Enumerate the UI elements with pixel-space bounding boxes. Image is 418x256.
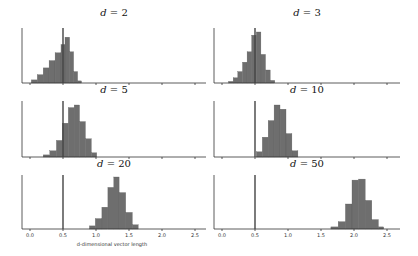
histogram-bar <box>233 78 238 83</box>
histogram-bar <box>274 105 280 157</box>
panel-d20: 0.00.51.01.52.02.5d = 20 <box>22 158 206 238</box>
histogram-bar <box>89 226 95 229</box>
histogram-bar <box>95 219 102 229</box>
histogram-bar <box>266 70 271 83</box>
histogram-bar <box>56 140 62 157</box>
histogram-bar <box>280 109 286 157</box>
panel-d5: d = 5 <box>22 84 206 159</box>
histogram-bar <box>262 137 268 157</box>
histogram-bars <box>256 105 298 157</box>
x-tick-label: 2.5 <box>191 232 199 238</box>
histogram-bar <box>65 37 70 83</box>
histogram-bar <box>359 179 366 229</box>
panel-d2: d = 2 <box>22 7 206 85</box>
histogram-bar <box>91 153 96 157</box>
histogram-bar <box>345 204 352 229</box>
panel-title: d = 20 <box>97 158 131 169</box>
histogram-bar <box>114 177 119 229</box>
histogram-bars <box>31 37 81 83</box>
x-tick-label: 1.5 <box>317 232 325 238</box>
histogram-bar <box>80 122 86 157</box>
histogram-bar <box>268 121 274 157</box>
panel-d3: d = 3 <box>214 7 400 85</box>
histogram-bar <box>238 72 243 83</box>
histogram-bar <box>49 61 55 83</box>
histogram-bar <box>261 54 266 83</box>
histogram-bar <box>256 32 261 83</box>
histogram-bar <box>292 151 298 157</box>
histogram-bar <box>31 80 37 83</box>
histogram-bar <box>256 152 262 157</box>
histogram-bar <box>43 68 49 83</box>
histogram-bar <box>132 225 138 229</box>
panel-d50: 0.00.51.01.52.02.5d = 50 <box>214 158 400 238</box>
x-tick-label: 1.0 <box>92 232 100 238</box>
histogram-bar <box>372 220 379 229</box>
x-tick-label: 0.5 <box>251 232 259 238</box>
histogram-bar <box>126 212 133 229</box>
histogram-bar <box>55 53 61 83</box>
x-tick-label: 2.0 <box>158 232 166 238</box>
panel-d10: d = 10 <box>214 84 400 159</box>
x-axis-label: d-dimensional vector length <box>77 241 147 248</box>
x-tick-label: 2.5 <box>383 232 391 238</box>
histogram-bars <box>43 105 97 157</box>
x-tick-label: 1.5 <box>125 232 133 238</box>
histogram-bar <box>102 207 108 229</box>
histogram-bars <box>229 32 275 83</box>
histogram-bar <box>50 151 57 157</box>
histogram-bar <box>70 52 74 83</box>
panel-title: d = 2 <box>100 7 128 18</box>
histogram-bars <box>89 177 138 229</box>
histogram-bar <box>247 52 252 83</box>
histogram-bar <box>119 193 126 229</box>
histogram-bar <box>85 139 91 157</box>
histogram-bar <box>74 72 78 83</box>
x-tick-label: 0.0 <box>26 232 34 238</box>
panel-title: d = 50 <box>290 158 324 169</box>
x-tick-label: 1.0 <box>284 232 292 238</box>
histogram-bar <box>74 105 79 157</box>
x-tick-label: 0.0 <box>218 232 226 238</box>
x-tick-label: 2.0 <box>350 232 358 238</box>
histogram-bar <box>37 75 43 83</box>
x-tick-label: 0.5 <box>59 232 67 238</box>
histogram-bar <box>365 200 372 229</box>
histogram-bar <box>68 108 74 157</box>
histogram-bar <box>338 222 345 229</box>
panel-title: d = 3 <box>293 7 321 18</box>
histogram-bar <box>243 62 248 83</box>
panel-title: d = 10 <box>290 84 324 95</box>
histogram-bar <box>352 180 359 229</box>
panel-title: d = 5 <box>100 84 128 95</box>
histogram-bar <box>108 187 114 229</box>
histogram-bar <box>286 134 292 157</box>
histogram-bars <box>331 179 384 229</box>
histogram-figure: d = 2 d = 3 d = 5 d = 10 0.00.51.01.52.0… <box>0 0 418 256</box>
